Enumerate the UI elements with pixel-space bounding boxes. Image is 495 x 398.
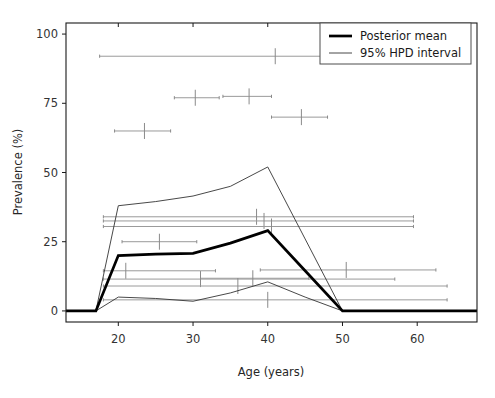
legend[interactable]: Posterior mean 95% HPD interval — [320, 23, 471, 64]
x-tick-label: 30 — [186, 332, 201, 346]
legend-label-hpd-interval: 95% HPD interval — [360, 46, 461, 60]
plot-area-background — [66, 23, 477, 322]
y-axis-tick-labels: 0255075100 — [36, 27, 58, 318]
figure-canvas: 2030405060 0255075100 Age (years) Preval… — [0, 0, 495, 398]
y-axis-label: Prevalence (%) — [11, 129, 25, 216]
legend-label-posterior-mean: Posterior mean — [360, 29, 447, 43]
x-axis-label: Age (years) — [238, 365, 305, 379]
y-tick-label: 100 — [36, 27, 58, 41]
y-tick-label: 50 — [43, 166, 58, 180]
x-tick-label: 50 — [335, 332, 350, 346]
prevalence-by-age-chart: 2030405060 0255075100 Age (years) Preval… — [0, 0, 495, 398]
x-tick-label: 40 — [260, 332, 275, 346]
x-tick-label: 60 — [410, 332, 425, 346]
x-axis-tick-labels: 2030405060 — [111, 332, 425, 346]
x-tick-label: 20 — [111, 332, 126, 346]
y-tick-label: 75 — [43, 96, 58, 110]
y-tick-label: 0 — [51, 304, 58, 318]
y-axis-ticks — [62, 34, 66, 311]
y-tick-label: 25 — [43, 235, 58, 249]
